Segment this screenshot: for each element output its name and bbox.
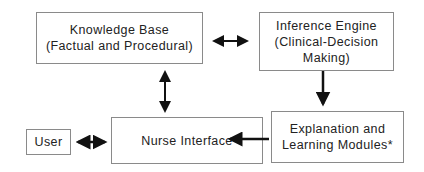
connector-arrows bbox=[0, 0, 424, 172]
